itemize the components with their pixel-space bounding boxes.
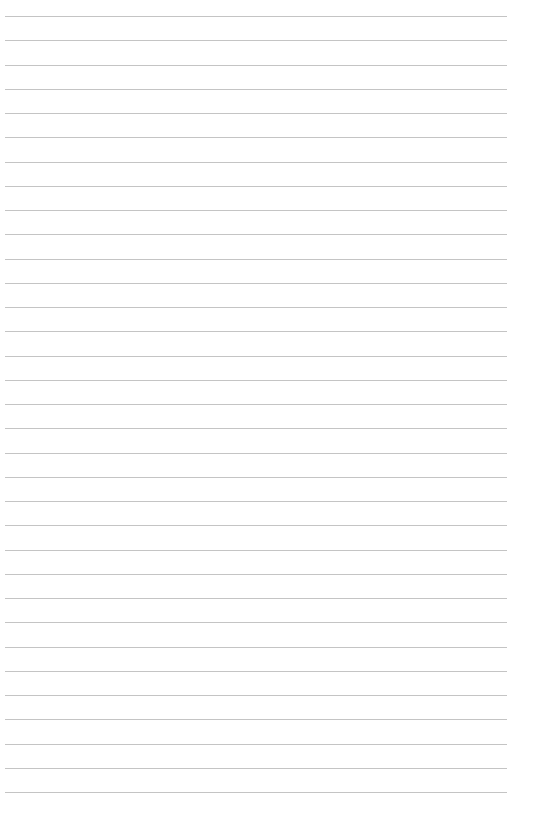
ruled-line bbox=[5, 404, 507, 405]
ruled-line bbox=[5, 428, 507, 429]
ruled-line bbox=[5, 331, 507, 332]
ruled-line bbox=[5, 356, 507, 357]
ruled-line bbox=[5, 525, 507, 526]
ruled-line bbox=[5, 598, 507, 599]
ruled-line bbox=[5, 719, 507, 720]
ruled-line bbox=[5, 477, 507, 478]
ruled-line bbox=[5, 380, 507, 381]
ruled-line bbox=[5, 113, 507, 114]
ruled-line bbox=[5, 622, 507, 623]
ruled-line bbox=[5, 550, 507, 551]
ruled-line bbox=[5, 234, 507, 235]
ruled-line bbox=[5, 65, 507, 66]
ruled-line bbox=[5, 501, 507, 502]
ruled-line bbox=[5, 283, 507, 284]
ruled-line bbox=[5, 744, 507, 745]
ruled-line bbox=[5, 768, 507, 769]
ruled-line bbox=[5, 186, 507, 187]
ruled-line bbox=[5, 137, 507, 138]
ruled-line bbox=[5, 259, 507, 260]
ruled-line bbox=[5, 162, 507, 163]
ruled-line bbox=[5, 647, 507, 648]
ruled-line bbox=[5, 89, 507, 90]
ruled-line bbox=[5, 671, 507, 672]
ruled-line bbox=[5, 16, 507, 17]
ruled-line bbox=[5, 453, 507, 454]
ruled-line bbox=[5, 40, 507, 41]
ruled-line bbox=[5, 210, 507, 211]
ruled-line bbox=[5, 695, 507, 696]
ruled-line bbox=[5, 792, 507, 793]
ruled-line bbox=[5, 307, 507, 308]
lined-paper-page bbox=[0, 0, 534, 836]
ruled-line bbox=[5, 574, 507, 575]
